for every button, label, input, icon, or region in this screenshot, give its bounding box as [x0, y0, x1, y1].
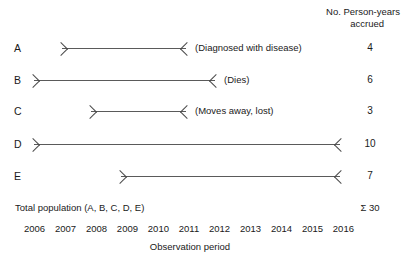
column-header-person-years: No. Person-years accrued: [260, 6, 400, 30]
total-person-years-value: Σ 30: [340, 201, 400, 215]
timeline-row-b: B (Dies) 6: [0, 66, 408, 96]
timeline-segment-c: [91, 111, 186, 112]
timeline-segment-b: [34, 80, 215, 81]
entry-chevron-icon-a: [54, 42, 68, 56]
entry-chevron-icon-b: [26, 74, 40, 88]
timeline-segment-d: [34, 144, 340, 145]
axis-title-observation-period: Observation period: [0, 240, 380, 253]
axis-year-2016: 2016: [333, 222, 354, 235]
timeline-row-e: E 7: [0, 162, 408, 192]
person-years-value-d: 10: [340, 137, 400, 151]
person-years-value-e: 7: [340, 169, 400, 183]
person-years-value-b: 6: [340, 73, 400, 87]
total-population-label: Total population (A, B, C, D, E): [15, 201, 144, 215]
axis-year-2011: 2011: [179, 222, 199, 235]
axis-year-2007: 2007: [55, 222, 76, 235]
axis-year-labels: 2006 2007 2008 2009 2010 2011 2012 2013 …: [24, 222, 354, 235]
exit-chevron-icon-b: [209, 74, 223, 88]
timeline-row-a: A (Diagnosed with disease) 4: [0, 34, 408, 64]
axis-year-2012: 2012: [209, 222, 230, 235]
axis-year-2015: 2015: [302, 222, 323, 235]
axis-year-2008: 2008: [86, 222, 107, 235]
axis-year-2014: 2014: [271, 222, 292, 235]
outcome-note-c: (Moves away, lost): [195, 104, 273, 118]
entry-chevron-icon-e: [113, 170, 127, 184]
outcome-note-b: (Dies): [224, 73, 249, 87]
exit-chevron-icon-c: [180, 105, 194, 119]
timeline-segment-e: [121, 176, 340, 177]
timeline-row-c: C (Moves away, lost) 3: [0, 97, 408, 127]
entry-chevron-icon-c: [83, 105, 97, 119]
axis-year-2010: 2010: [148, 222, 169, 235]
column-header-line2: accrued: [260, 18, 400, 30]
axis-year-2009: 2009: [117, 222, 138, 235]
entry-chevron-icon-d: [26, 138, 40, 152]
person-years-value-c: 3: [340, 104, 400, 118]
person-years-timeline-figure: No. Person-years accrued A (Diagnosed wi…: [0, 0, 408, 261]
timeline-segment-a: [62, 48, 186, 49]
exit-chevron-icon-a: [180, 42, 194, 56]
person-years-value-a: 4: [340, 41, 400, 55]
axis-year-2013: 2013: [240, 222, 261, 235]
column-header-line1: No. Person-years: [326, 6, 400, 17]
outcome-note-a: (Diagnosed with disease): [195, 41, 302, 55]
axis-year-2006: 2006: [24, 222, 45, 235]
timeline-row-d: D 10: [0, 130, 408, 160]
